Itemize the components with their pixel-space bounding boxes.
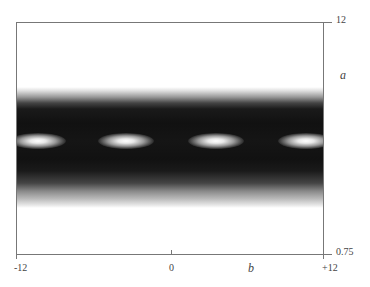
y-tick-bottom [324, 254, 332, 255]
bright-spot [278, 133, 324, 149]
y-tick-top [324, 22, 332, 23]
bright-spot [98, 133, 154, 149]
y-axis-label: a [340, 68, 346, 83]
x-tick-label-mid: 0 [169, 262, 174, 273]
x-tick-label-right: +12 [322, 262, 338, 273]
y-tick-label-bottom: 0.75 [336, 246, 354, 257]
x-tick-left [16, 254, 17, 259]
x-tick-mid [171, 250, 172, 255]
x-axis-label: b [248, 261, 254, 276]
heatmap-plot-area [16, 22, 324, 255]
bright-spot [16, 133, 66, 149]
bright-spot [188, 133, 244, 149]
y-tick-label-top: 12 [336, 14, 346, 25]
x-tick-right [323, 254, 324, 259]
x-tick-label-left: -12 [14, 262, 27, 273]
